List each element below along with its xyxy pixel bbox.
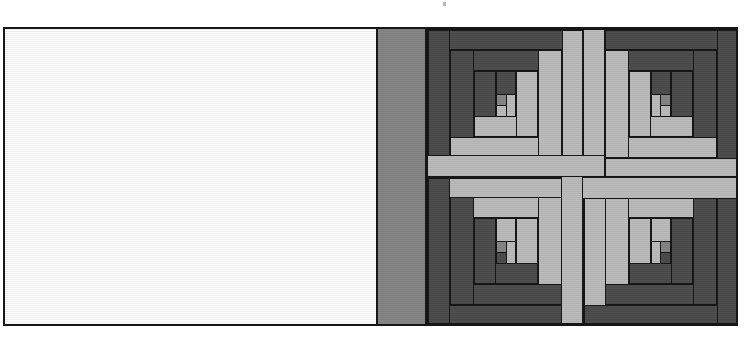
log-strip bbox=[428, 305, 583, 324]
log-strip bbox=[584, 178, 606, 324]
log-strip bbox=[605, 50, 629, 158]
log-strip bbox=[474, 218, 496, 284]
figure-frame bbox=[3, 27, 738, 326]
log-strip bbox=[538, 50, 562, 158]
log-cabin-block-bottom-right bbox=[583, 177, 738, 324]
log-strip bbox=[651, 218, 671, 242]
log-strip bbox=[660, 252, 671, 264]
log-strip bbox=[629, 71, 651, 137]
log-strip bbox=[693, 197, 717, 305]
log-cabin-block-top-right bbox=[583, 29, 738, 177]
pinwheel-strip-bottom bbox=[561, 155, 583, 324]
log-strip bbox=[584, 305, 738, 324]
log-strip bbox=[428, 30, 583, 50]
log-strip bbox=[496, 218, 516, 242]
pinwheel-strip-right bbox=[567, 177, 738, 199]
log-strip bbox=[450, 197, 474, 305]
log-strip bbox=[516, 71, 538, 137]
pinwheel-strip-left bbox=[427, 155, 605, 177]
log-strip bbox=[506, 241, 516, 264]
log-strip bbox=[584, 30, 738, 50]
log-strip bbox=[651, 71, 671, 95]
log-strip bbox=[428, 178, 583, 198]
quilt-diagram-page: Log Cabin Pinwheel Quilt Block Diagram bbox=[0, 0, 745, 337]
log-strip bbox=[428, 178, 450, 324]
quilt-block-panel bbox=[427, 29, 738, 324]
log-strip bbox=[717, 178, 738, 324]
log-strip bbox=[496, 71, 516, 95]
vertical-sashing-band bbox=[376, 29, 427, 324]
log-strip bbox=[584, 158, 738, 177]
scan-speck bbox=[443, 2, 446, 6]
figure-title: Log Cabin Pinwheel Quilt Block Diagram bbox=[0, 0, 1, 1]
log-strip bbox=[671, 218, 693, 284]
log-strip bbox=[717, 30, 738, 177]
log-strip bbox=[496, 252, 507, 264]
plain-white-panel bbox=[5, 29, 376, 324]
log-cabin-block-bottom-left bbox=[427, 177, 583, 324]
log-strip bbox=[651, 94, 661, 117]
log-strip bbox=[506, 94, 516, 117]
